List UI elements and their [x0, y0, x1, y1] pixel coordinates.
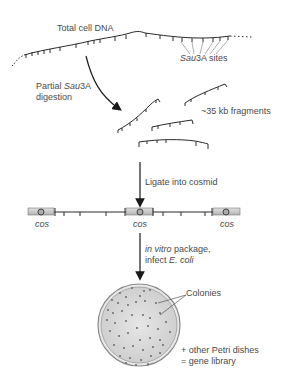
- sau3a-site-pointers: [181, 40, 228, 54]
- cos-site-marker: [137, 209, 143, 215]
- ligation-label: Ligate into cosmid: [145, 177, 218, 188]
- fragments-label: ~35 kb fragments: [201, 106, 271, 117]
- cos-site-marker: [38, 209, 44, 215]
- infect-plain: infect: [145, 255, 169, 265]
- cos-label-middle: cos: [133, 219, 147, 230]
- diagram-canvas: [0, 0, 285, 387]
- packaging-label: in vitro package, infect E. coli: [145, 244, 211, 266]
- sau3a-italic: Sau: [180, 53, 196, 63]
- digestion-label: Partial Sau3A digestion: [36, 81, 91, 103]
- colonies-label: Colonies: [186, 288, 221, 299]
- gene-library-line: = gene library: [181, 356, 236, 366]
- gene-library-note: + other Petri dishes = gene library: [181, 345, 259, 367]
- cos-label-left: cos: [35, 219, 49, 230]
- packaging-rest: package,: [172, 244, 211, 254]
- digestion-plain: Partial: [36, 81, 64, 91]
- digestion-rest: 3A: [80, 81, 91, 91]
- ecoli-italic: E. coli: [169, 255, 194, 265]
- cosmid-vector: [28, 208, 240, 216]
- cos-site-marker: [223, 209, 229, 215]
- digestion-line2: digestion: [36, 92, 72, 102]
- packaging-italic: in vitro: [145, 244, 172, 254]
- other-dishes-line: + other Petri dishes: [181, 345, 259, 355]
- petri-dish: [98, 284, 180, 366]
- digestion-italic: Sau: [64, 81, 80, 91]
- cos-label-right: cos: [220, 219, 234, 230]
- total-cell-dna-label: Total cell DNA: [57, 23, 114, 34]
- sau3a-sites-label: Sau3A sites: [180, 53, 228, 64]
- sau3a-sites-rest: 3A sites: [196, 53, 228, 63]
